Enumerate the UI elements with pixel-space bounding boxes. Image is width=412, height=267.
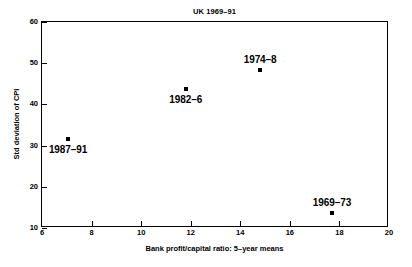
data-point-marker [258, 68, 262, 72]
y-tick-label: 60 [30, 18, 38, 26]
y-tick-mark [42, 187, 47, 188]
plot-area: 102030405060 68101214161820 1987–911982–… [41, 21, 388, 227]
scatter-chart-figure: UK 1969–91 102030405060 68101214161820 1… [0, 0, 412, 267]
data-point-marker [66, 137, 70, 141]
x-tick-label: 6 [40, 229, 44, 237]
data-point-marker [330, 211, 334, 215]
y-tick-label: 30 [30, 142, 38, 150]
y-axis-label: Std deviation of CPI [11, 21, 22, 227]
x-tick-label: 10 [137, 229, 145, 237]
x-tick-mark [191, 221, 192, 226]
y-tick-mark [42, 22, 47, 23]
x-tick-label: 18 [335, 229, 343, 237]
y-tick-mark [42, 63, 47, 64]
y-tick-label: 40 [30, 100, 38, 108]
y-tick-mark [42, 146, 47, 147]
y-tick-label: 10 [30, 224, 38, 232]
x-tick-mark [290, 221, 291, 226]
x-tick-mark [240, 221, 241, 226]
data-point-marker [184, 87, 188, 91]
x-tick-label: 16 [286, 229, 294, 237]
x-tick-label: 20 [385, 229, 393, 237]
y-tick-label: 50 [30, 59, 38, 67]
x-tick-mark [92, 221, 93, 226]
x-tick-label: 14 [236, 229, 244, 237]
x-axis-label: Bank profit/capital ratio: 5–year means [41, 244, 388, 254]
y-tick-mark [42, 104, 47, 105]
chart-title: UK 1969–91 [41, 7, 388, 17]
x-tick-mark [141, 221, 142, 226]
x-tick-label: 8 [89, 229, 93, 237]
x-tick-label: 12 [187, 229, 195, 237]
y-tick-label: 20 [30, 183, 38, 191]
data-point-label: 1982–6 [169, 94, 202, 105]
x-tick-mark [339, 221, 340, 226]
data-point-label: 1969–73 [313, 197, 351, 208]
data-point-label: 1987–91 [49, 144, 87, 155]
data-point-label: 1974–8 [244, 54, 277, 65]
